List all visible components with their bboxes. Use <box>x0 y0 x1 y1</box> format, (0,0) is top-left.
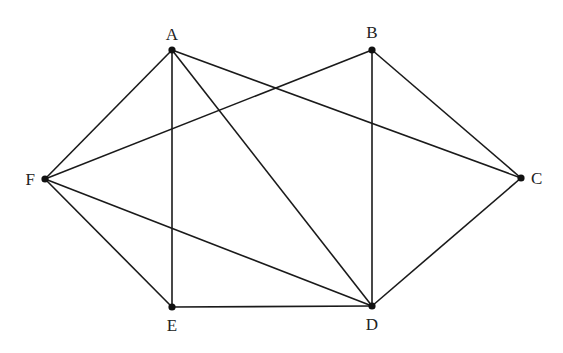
labels-group: ABCDEF <box>26 23 543 335</box>
edge-a-f <box>45 50 172 179</box>
edges-group <box>45 50 521 307</box>
vertex-label-a: A <box>166 25 179 44</box>
graph-diagram: ABCDEF <box>0 0 563 353</box>
vertex-b <box>368 46 375 53</box>
edge-c-d <box>372 178 521 306</box>
edge-b-f <box>45 50 372 179</box>
edge-b-c <box>372 50 521 178</box>
vertex-label-e: E <box>167 316 177 335</box>
vertex-label-f: F <box>26 170 35 189</box>
vertex-a <box>168 46 175 53</box>
edge-a-c <box>172 50 521 178</box>
vertex-e <box>168 303 175 310</box>
edge-d-e <box>172 306 372 307</box>
vertex-c <box>517 174 524 181</box>
vertex-f <box>41 175 48 182</box>
vertex-d <box>368 302 375 309</box>
vertex-label-b: B <box>366 23 377 42</box>
vertex-label-c: C <box>531 169 542 188</box>
vertex-label-d: D <box>366 315 378 334</box>
edge-e-f <box>45 179 172 307</box>
